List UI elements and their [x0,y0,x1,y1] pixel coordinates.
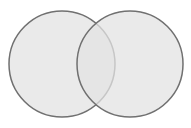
venn-circle-right [77,11,183,117]
venn-diagram [0,0,191,128]
